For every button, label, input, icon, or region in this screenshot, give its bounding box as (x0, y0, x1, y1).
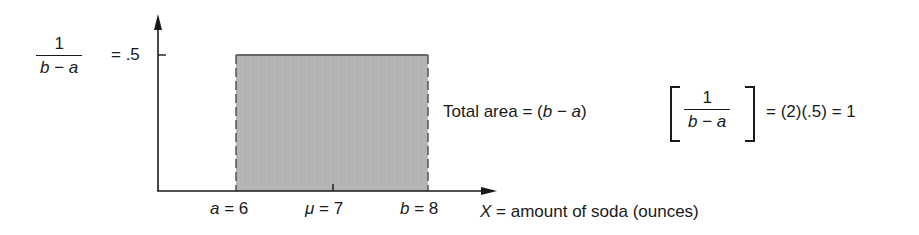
y-axis (154, 14, 166, 191)
uniform-density-area (236, 55, 428, 191)
y-axis-arrow-icon (154, 14, 162, 30)
annotation-fraction: 1 b − a (684, 89, 730, 130)
x-tick-label-mu: μ = 7 (305, 199, 343, 219)
x-axis-title: X = amount of soda (ounces) (480, 202, 699, 222)
x-tick-label-a: a = 6 (210, 199, 248, 219)
total-area-result: = (2)(.5) = 1 (766, 102, 856, 122)
y-tick-fraction: 1 b − a (36, 35, 82, 76)
left-bracket-icon (670, 86, 680, 142)
x-tick-label-b: b = 8 (400, 199, 438, 219)
right-bracket-icon (745, 86, 755, 142)
x-axis-arrow-icon (481, 187, 497, 195)
y-tick-value: = .5 (111, 45, 140, 65)
total-area-label: Total area = (b − a) (443, 102, 587, 122)
